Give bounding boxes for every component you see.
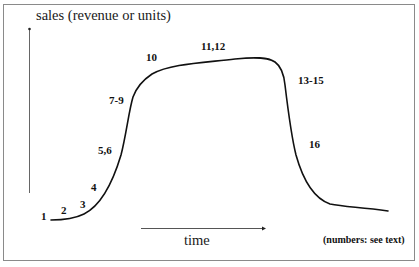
stage-label-1: 1 (41, 211, 47, 222)
x-axis-arrow-icon (262, 227, 266, 231)
stage-label-2: 2 (61, 205, 67, 216)
y-axis-title: sales (revenue or units) (36, 8, 171, 23)
sales-curve (51, 58, 388, 220)
stage-label-5-6: 5,6 (98, 145, 112, 156)
stage-label-4: 4 (91, 182, 97, 193)
stage-label-13-15: 13-15 (298, 75, 324, 86)
stage-label-16: 16 (309, 139, 320, 150)
stage-label-11-12: 11,12 (201, 41, 225, 52)
y-axis-arrow-icon (28, 28, 31, 31)
stage-label-10: 10 (146, 52, 157, 63)
stage-label-7-9: 7-9 (109, 95, 124, 106)
x-axis (141, 227, 266, 231)
footnote: (numbers: see text) (323, 235, 405, 245)
stage-label-3: 3 (80, 199, 86, 210)
y-axis (28, 28, 31, 193)
x-axis-label: time (184, 233, 210, 248)
